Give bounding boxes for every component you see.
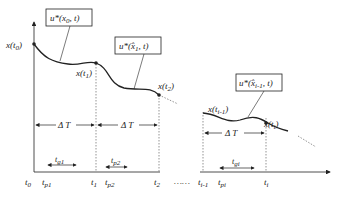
svg-text:ti: ti [264,177,269,189]
point-x-t0 [32,42,36,46]
label-x-t2: x(t2) [157,81,174,93]
svg-text:……: …… [174,176,190,186]
svg-text:tp1: tp1 [42,177,52,189]
delta-t-label-2: Δ T [120,120,134,130]
delta-t-label-1: Δ T [57,120,71,130]
svg-text:t1: t1 [91,177,97,189]
label-tg1: tg1 [55,155,64,166]
point-x-t1 [94,61,98,65]
control-box-u1: u*(x̂1, t) [115,37,161,89]
point-x-t2 [157,93,161,97]
trajectory-2-extension [159,95,178,104]
control-box-ui: u*(x̂i-1, t) [236,74,282,117]
svg-text:t2: t2 [154,177,161,189]
trajectory-i-extension [298,136,316,147]
axis-tick-labels: t0 tp1 t1 tp2 t2 …… ti-1 tpi ti [25,176,269,189]
trajectory-1 [34,44,96,64]
timing-diagram: u*(x0, t) u*(x̂1, t) u*(x̂i-1, t) x(t0) … [0,0,343,197]
label-tp2-upper: tp2 [111,156,121,167]
trajectory-2 [96,63,159,95]
delta-t-label-i: Δ T [224,128,238,138]
label-x-t0: x(t0) [5,40,22,52]
svg-text:tp2: tp2 [105,177,115,189]
label-tgi: tgi [232,157,240,168]
label-x-ti: x(ti) [263,119,278,131]
label-x-t1: x(t1) [75,68,92,80]
interval-arrows [48,165,254,168]
control-box-u0: u*(x0, t) [46,9,92,61]
svg-text:tpi: tpi [218,177,226,189]
svg-text:ti-1: ti-1 [198,177,208,189]
svg-text:t0: t0 [25,177,32,189]
